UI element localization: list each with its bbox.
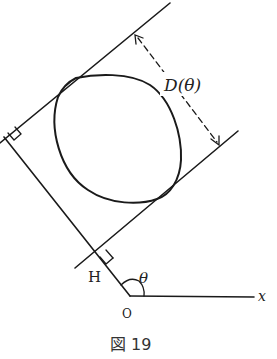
right-angle-marker-upper xyxy=(8,127,21,140)
x-axis-label: x xyxy=(258,288,266,304)
upper-support-line xyxy=(0,3,170,143)
width-label: D(θ) xyxy=(163,75,201,95)
theta-label: θ xyxy=(139,269,148,287)
width-function-diagram: D(θ) θ H O x 図 19 xyxy=(0,0,277,359)
normal-line-through-origin xyxy=(4,137,130,296)
foot-point-label: H xyxy=(88,268,101,286)
figure-caption: 図 19 xyxy=(110,335,151,354)
origin-label: O xyxy=(122,307,132,321)
x-axis xyxy=(130,296,254,297)
